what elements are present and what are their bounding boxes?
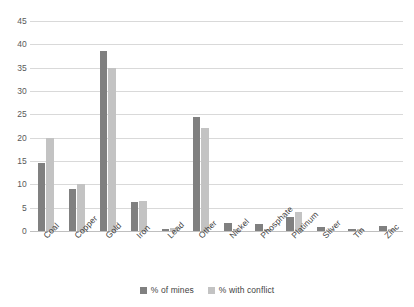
y-tick-label: 10 <box>3 180 27 189</box>
bar-group <box>162 21 178 231</box>
bar <box>108 68 116 231</box>
bar <box>193 117 201 231</box>
bar <box>69 189 77 231</box>
bar-group <box>38 21 54 231</box>
bar-group <box>100 21 116 231</box>
legend-swatch-icon <box>140 287 147 294</box>
legend-swatch-icon <box>208 287 215 294</box>
bar-group <box>317 21 333 231</box>
y-tick-label: 15 <box>3 157 27 166</box>
y-tick-label: 0 <box>3 227 27 236</box>
y-axis: 454035302520151050 <box>0 21 27 231</box>
bar-chart: 454035302520151050 CoalCopperGoldIronLea… <box>0 0 414 307</box>
bar-group <box>131 21 147 231</box>
y-tick-label: 25 <box>3 110 27 119</box>
bar-group <box>286 21 302 231</box>
legend-label: % of mines <box>151 286 194 295</box>
bar <box>46 138 54 231</box>
y-tick-label: 45 <box>3 17 27 26</box>
y-tick-label: 35 <box>3 64 27 73</box>
y-tick-label: 5 <box>3 204 27 213</box>
bar <box>38 163 46 231</box>
bar-group <box>193 21 209 231</box>
y-tick-label: 30 <box>3 87 27 96</box>
x-axis: CoalCopperGoldIronLeadOtherNickelPhospha… <box>30 231 403 283</box>
legend-label: % with conflict <box>219 286 274 295</box>
bar <box>201 128 209 231</box>
y-tick-label: 20 <box>3 134 27 143</box>
bar-group <box>255 21 271 231</box>
chart-legend: % of mines% with conflict <box>0 286 414 295</box>
bar-group <box>69 21 85 231</box>
bar <box>131 202 139 231</box>
legend-item[interactable]: % of mines <box>140 286 194 295</box>
bar-group <box>348 21 364 231</box>
legend-item[interactable]: % with conflict <box>208 286 274 295</box>
bar-group <box>224 21 240 231</box>
bar <box>100 51 108 231</box>
bar-group <box>379 21 395 231</box>
y-tick-label: 40 <box>3 40 27 49</box>
bars-layer <box>30 21 403 231</box>
